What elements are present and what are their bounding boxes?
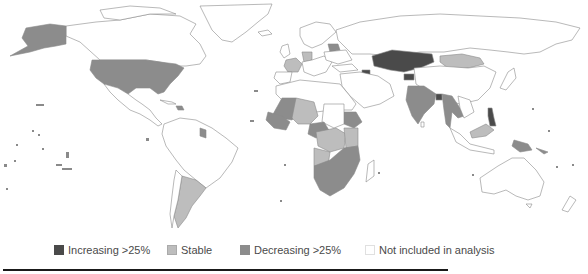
region-ethiopia: [344, 112, 362, 128]
region-uk: [280, 44, 290, 58]
region-new-zealand: [562, 196, 576, 212]
swatch-increasing-icon: [54, 245, 64, 255]
legend-item-decreasing: Decreasing >25%: [240, 244, 341, 256]
swatch-stable-icon: [167, 245, 177, 255]
region-canada: [66, 14, 206, 66]
region-guyana: [200, 128, 206, 138]
region-turkey: [332, 64, 358, 72]
region-philippines: [488, 108, 496, 126]
legend-item-not-included: Not included in analysis: [365, 244, 495, 256]
region-tasmania: [526, 204, 532, 208]
legend-label: Increasing >25%: [68, 244, 150, 256]
region-kyrgyzstan: [404, 74, 414, 80]
map-legend: Increasing >25% Stable Decreasing >25% N…: [0, 244, 588, 260]
region-haiti: [176, 106, 184, 110]
region-sri-lanka: [421, 122, 424, 127]
region-iberia: [274, 72, 292, 84]
region-madagascar: [366, 160, 374, 182]
swatch-decreasing-icon: [240, 245, 250, 255]
region-australia: [480, 158, 544, 200]
region-india: [406, 86, 436, 124]
region-east-africa: [344, 128, 358, 148]
region-russia: [336, 14, 580, 56]
region-solomon: [536, 148, 548, 154]
region-central-africa: [316, 128, 346, 152]
legend-item-increasing: Increasing >25%: [54, 244, 150, 256]
legend-item-stable: Stable: [167, 244, 212, 256]
region-mongolia: [440, 54, 484, 68]
bottom-rule: [3, 269, 448, 271]
region-united-states: [90, 60, 184, 94]
region-greenland: [200, 4, 272, 42]
region-japan: [500, 68, 516, 90]
legend-label: Decreasing >25%: [254, 244, 341, 256]
legend-label: Not included in analysis: [379, 244, 495, 256]
region-cuba: [160, 100, 176, 104]
region-niger-nigeria: [292, 98, 318, 124]
region-png: [512, 140, 532, 152]
region-iceland: [258, 30, 272, 36]
region-bangladesh: [436, 94, 442, 100]
swatch-not-included-icon: [365, 245, 375, 255]
world-map: [0, 0, 588, 232]
region-alaska: [10, 24, 66, 56]
legend-label: Stable: [181, 244, 212, 256]
region-france: [284, 58, 302, 72]
